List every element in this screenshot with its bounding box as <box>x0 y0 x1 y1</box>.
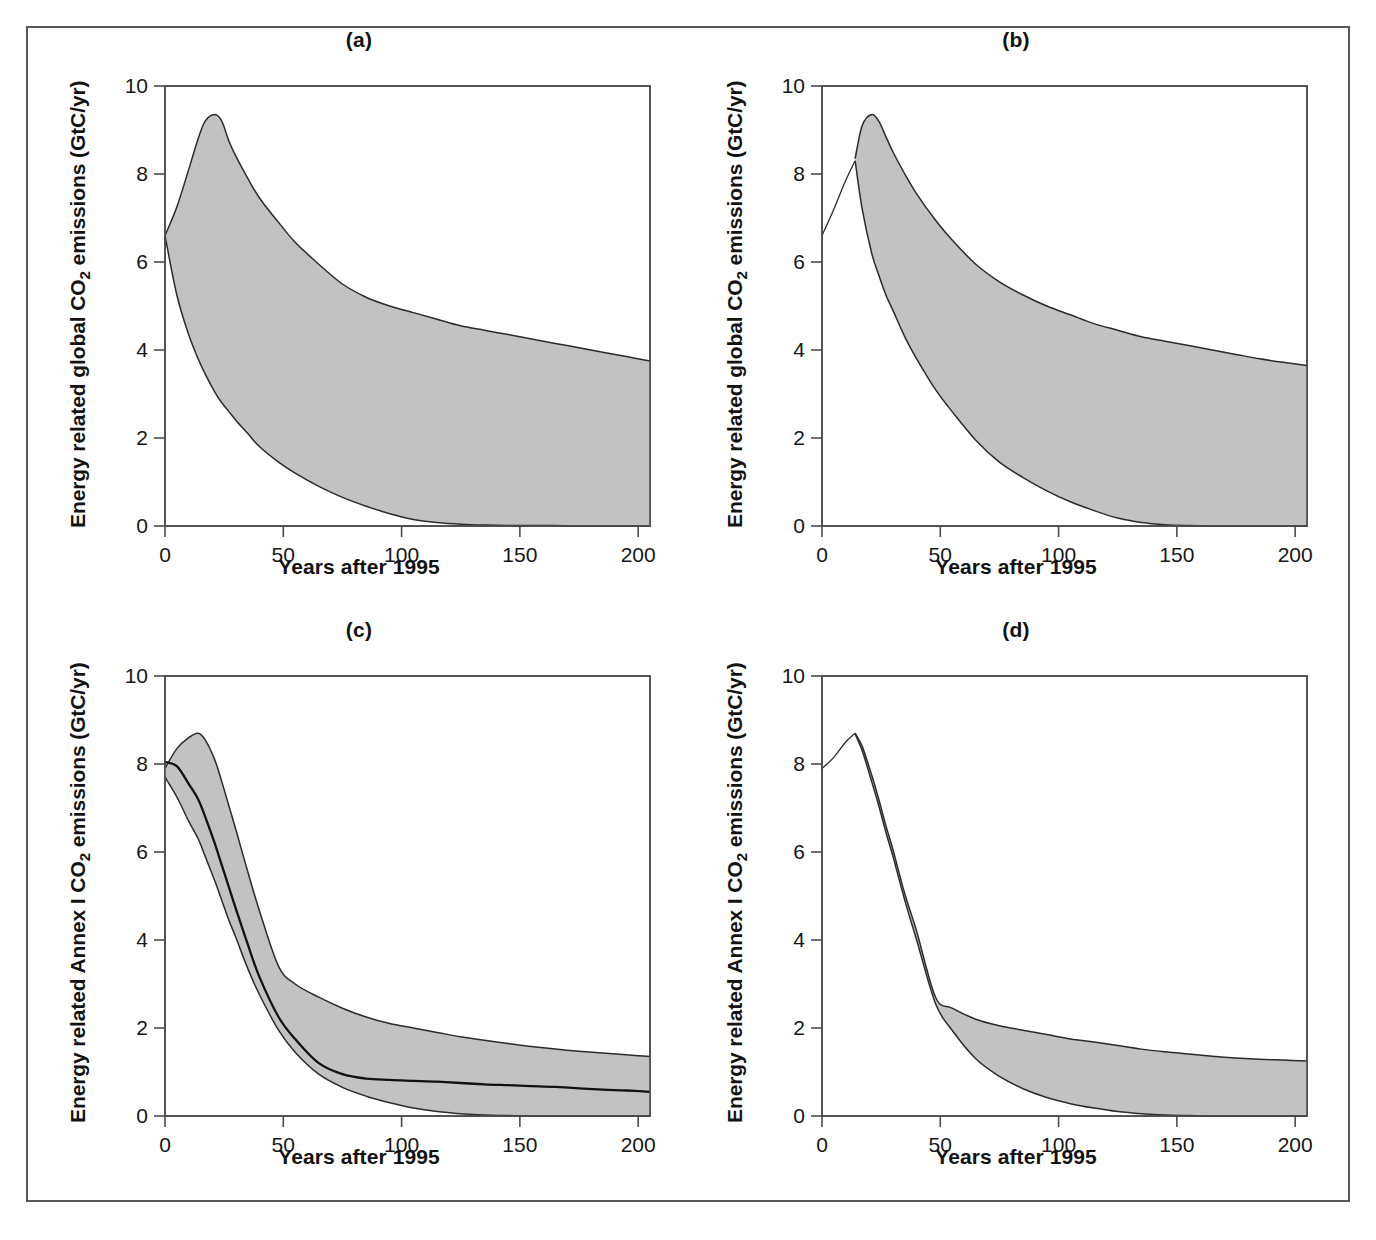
y-tick-label: 10 <box>782 664 805 687</box>
y-tick-label: 2 <box>136 426 148 449</box>
panel-d-plot: 0246810050100150200 <box>685 618 1347 1178</box>
panel-b-xlabel: Years after 1995 <box>685 555 1347 579</box>
y-tick-label: 0 <box>136 1104 148 1127</box>
panel-d-xlabel: Years after 1995 <box>685 1145 1347 1169</box>
uncertainty-band <box>855 115 1307 527</box>
y-tick-label: 4 <box>793 338 805 361</box>
y-tick-label: 8 <box>136 162 148 185</box>
y-tick-label: 2 <box>136 1016 148 1039</box>
panel-d: (d) Energy related Annex I CO2 emissions… <box>685 618 1347 1206</box>
y-tick-label: 4 <box>136 928 148 951</box>
figure-frame: (a) Energy related global CO2 emissions … <box>26 26 1350 1202</box>
panel-a-xlabel: Years after 1995 <box>28 555 690 579</box>
y-tick-label: 6 <box>136 250 148 273</box>
y-tick-label: 0 <box>793 514 805 537</box>
panel-c: (c) Energy related Annex I CO2 emissions… <box>28 618 690 1206</box>
y-tick-label: 6 <box>793 840 805 863</box>
panel-c-xlabel: Years after 1995 <box>28 1145 690 1169</box>
y-tick-label: 8 <box>136 752 148 775</box>
panel-b: (b) Energy related global CO2 emissions … <box>685 28 1347 616</box>
y-tick-label: 10 <box>782 74 805 97</box>
y-tick-label: 6 <box>793 250 805 273</box>
panel-b-plot: 0246810050100150200 <box>685 28 1347 588</box>
y-tick-label: 8 <box>793 162 805 185</box>
y-tick-label: 0 <box>136 514 148 537</box>
y-tick-label: 4 <box>793 928 805 951</box>
y-tick-label: 10 <box>125 664 148 687</box>
panel-a-plot: 0246810050100150200 <box>28 28 690 588</box>
trunk-line <box>822 161 855 236</box>
uncertainty-band <box>165 115 650 526</box>
y-tick-label: 4 <box>136 338 148 361</box>
uncertainty-band <box>165 733 650 1116</box>
trunk-line <box>822 733 855 768</box>
y-tick-label: 8 <box>793 752 805 775</box>
upper-envelope-line <box>855 733 1307 1061</box>
y-tick-label: 0 <box>793 1104 805 1127</box>
y-tick-label: 6 <box>136 840 148 863</box>
panel-a: (a) Energy related global CO2 emissions … <box>28 28 690 616</box>
y-tick-label: 2 <box>793 426 805 449</box>
y-tick-label: 2 <box>793 1016 805 1039</box>
y-tick-label: 10 <box>125 74 148 97</box>
panel-c-plot: 0246810050100150200 <box>28 618 690 1178</box>
